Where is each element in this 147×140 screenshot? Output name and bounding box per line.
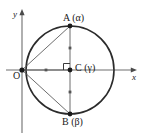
y-axis-arrowhead [19,9,24,15]
point-label-C: C (γ) [75,63,95,73]
tick-mark-AC [69,47,72,50]
y-axis-label: y [13,10,17,19]
point-dot-C [68,68,73,73]
point-dot-A [68,24,73,29]
x-axis-label: x [132,73,136,82]
point-label-B: B (β) [62,117,83,127]
figure-container: A (α) C (γ) B (β) O x y [0,0,147,140]
tick-mark-CB [69,91,72,94]
point-label-A: A (α) [63,13,84,23]
origin-label-O: O [13,71,20,81]
tick-mark-OC [45,69,48,72]
